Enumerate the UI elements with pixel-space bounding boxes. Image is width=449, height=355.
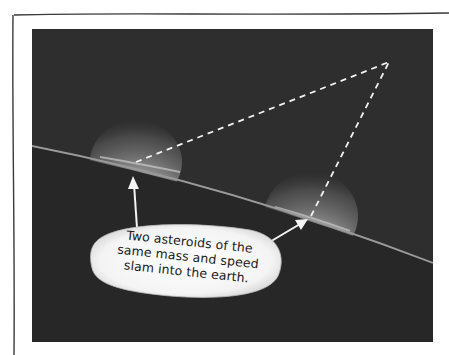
illustration — [0, 0, 449, 355]
frame-border — [14, 13, 449, 15]
frame-border-left — [13, 15, 14, 355]
